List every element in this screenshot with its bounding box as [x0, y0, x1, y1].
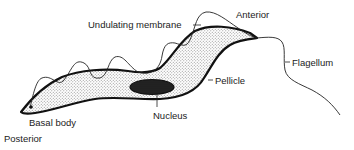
label-basal-body: Basal body	[29, 117, 76, 128]
trypanosome-diagram: Undulating membrane Anterior Flagellum P…	[0, 0, 354, 150]
label-undulating-membrane: Undulating membrane	[88, 19, 181, 30]
label-posterior: Posterior	[4, 133, 42, 144]
label-anterior: Anterior	[236, 9, 269, 20]
label-nucleus: Nucleus	[153, 110, 188, 121]
cell-body	[21, 27, 257, 114]
label-flagellum: Flagellum	[292, 57, 333, 68]
flagellum	[257, 37, 340, 115]
label-pellicle: Pellicle	[215, 75, 245, 86]
nucleus	[130, 80, 174, 95]
basal-body	[29, 105, 33, 109]
